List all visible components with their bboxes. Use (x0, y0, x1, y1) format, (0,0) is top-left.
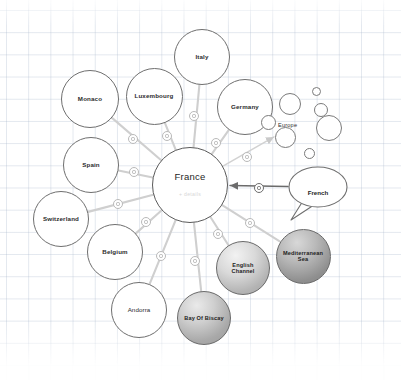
cluster-circle[interactable] (261, 115, 276, 130)
node-belgium[interactable]: Belgium (87, 224, 143, 280)
node-label-switzerland: Switzerland (40, 216, 82, 223)
node-label-bay-of-biscay: Bay Of Biscay (181, 315, 227, 321)
node-french[interactable]: French (288, 166, 348, 222)
edge-badge-dot-icon (245, 155, 248, 158)
edge-badge-dot-icon (193, 259, 196, 262)
node-label-italy: Italy (192, 54, 211, 61)
node-label-monaco: Monaco (75, 96, 105, 103)
node-luxembourg[interactable]: Luxembourg (126, 68, 183, 125)
cluster-circle[interactable] (275, 127, 296, 148)
node-mediterranean-sea[interactable]: Mediterranean Sea (276, 229, 331, 284)
edge-badge-dot-icon (257, 186, 260, 189)
node-label-spain: Spain (79, 162, 103, 169)
edge-badge-dot-icon (165, 134, 168, 137)
node-label-belgium: Belgium (99, 249, 130, 256)
node-details-link-france[interactable]: + details (176, 192, 204, 198)
node-label-germany: Germany (228, 104, 262, 111)
edge-badge-dot-icon (214, 141, 217, 144)
edge-badge-dot-icon (144, 220, 147, 223)
graph-canvas[interactable]: France+ detailsItalyLuxembourgMonacoGerm… (0, 0, 401, 380)
node-label-france: France (172, 172, 209, 183)
node-english-channel[interactable]: English Channel (216, 241, 270, 295)
node-switzerland[interactable]: Switzerland (33, 191, 89, 247)
edge-badge-dot-icon (131, 137, 134, 140)
cluster-circle[interactable] (312, 87, 321, 96)
node-monaco[interactable]: Monaco (61, 70, 119, 128)
cluster-circle[interactable] (279, 93, 301, 115)
edge-badge-dot-icon (159, 254, 162, 257)
node-label-luxembourg: Luxembourg (132, 93, 177, 100)
node-andorra[interactable]: Andorra (111, 282, 167, 338)
node-france[interactable]: France+ details (152, 147, 228, 223)
edge-badge-dot-icon (192, 114, 195, 117)
node-label-mediterranean-sea: Mediterranean Sea (277, 250, 330, 263)
edge-badge-dot-icon (248, 221, 251, 224)
node-italy[interactable]: Italy (174, 29, 230, 85)
node-label-french: French (308, 189, 329, 196)
node-bay-of-biscay[interactable]: Bay Of Biscay (177, 291, 231, 345)
cluster-circle[interactable] (316, 115, 342, 141)
cluster-label-europe: Europe (278, 122, 297, 128)
node-label-andorra: Andorra (125, 307, 154, 314)
node-spain[interactable]: Spain (63, 137, 119, 193)
edge-badge-dot-icon (132, 170, 135, 173)
cluster-circle[interactable] (304, 148, 315, 159)
edge-badge-dot-icon (116, 202, 119, 205)
edge-badge-dot-icon (216, 232, 219, 235)
node-label-english-channel: English Channel (217, 262, 269, 275)
